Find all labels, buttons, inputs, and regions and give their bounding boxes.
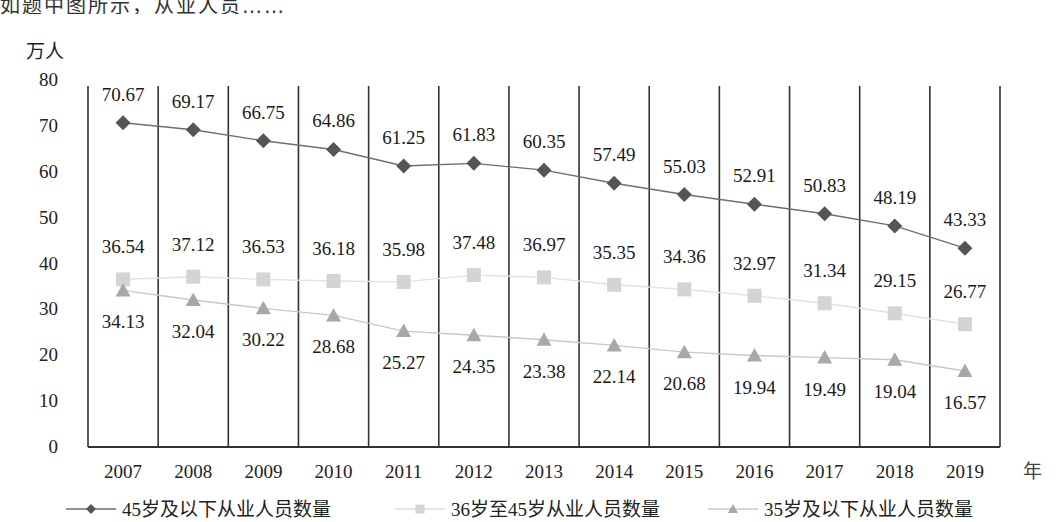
data-label: 28.68 [312,336,355,357]
data-label: 23.38 [523,361,566,382]
x-tick-label: 2013 [525,461,563,482]
data-label: 35.98 [382,239,425,260]
x-tick-label: 2015 [665,461,703,482]
diamond-marker-icon [116,115,131,130]
y-tick-label: 50 [39,207,58,228]
diamond-marker-icon [677,187,692,202]
x-tick-label: 2016 [735,461,773,482]
data-label: 70.67 [102,84,145,105]
data-label: 30.22 [242,329,285,350]
data-label: 61.25 [382,127,425,148]
y-tick-label: 10 [39,390,58,411]
x-tick-label: 2018 [876,461,914,482]
data-label: 34.36 [663,246,706,267]
data-label: 25.27 [382,352,425,373]
square-marker-icon [416,505,425,514]
legend-item: 45岁及以下从业人员数量 [66,499,331,520]
data-label: 19.94 [733,377,776,398]
data-label: 66.75 [242,102,285,123]
data-label: 57.49 [593,144,636,165]
y-tick-label: 30 [39,298,58,319]
data-label: 55.03 [663,156,706,177]
data-label: 50.83 [803,175,846,196]
square-marker-icon [747,289,761,303]
x-tick-label: 2019 [946,461,984,482]
y-tick-label: 20 [39,344,58,365]
diamond-marker-icon [817,206,832,221]
data-label: 35.35 [593,242,636,263]
square-marker-icon [256,272,270,286]
y-axis-ticks: 01020304050607080 [39,69,58,457]
x-tick-label: 2010 [315,461,353,482]
square-marker-icon [467,268,481,282]
data-label: 32.97 [733,253,776,274]
legend-label: 36岁至45岁从业人员数量 [451,499,660,520]
diamond-marker-icon [326,142,341,157]
y-tick-label: 0 [49,436,59,457]
data-label: 36.54 [102,236,145,257]
data-label: 34.13 [102,311,145,332]
x-tick-label: 2008 [174,461,212,482]
legend-label: 35岁及以下从业人员数量 [764,499,973,520]
data-label: 32.04 [172,321,215,342]
data-label: 31.34 [803,260,846,281]
x-unit-label: 年 [1023,461,1042,482]
y-unit-label: 万人 [26,41,64,62]
y-tick-label: 60 [39,161,58,182]
diamond-marker-icon [86,504,96,514]
square-marker-icon [607,278,621,292]
legend: 45岁及以下从业人员数量36岁至45岁从业人员数量35岁及以下从业人员数量 [66,499,973,520]
x-tick-label: 2014 [595,461,634,482]
data-label: 16.57 [944,392,987,413]
diamond-marker-icon [186,122,201,137]
diamond-marker-icon [256,133,271,148]
square-marker-icon [958,317,972,331]
legend-item: 36岁至45岁从业人员数量 [395,499,660,520]
x-tick-label: 2007 [104,461,142,482]
data-label: 36.18 [312,238,355,259]
x-tick-label: 2011 [385,461,422,482]
chart-canvas: 万人 01020304050607080 70.6769.1766.7564.8… [0,0,1060,522]
data-label: 19.49 [803,379,846,400]
square-marker-icon [818,296,832,310]
square-marker-icon [397,275,411,289]
data-label: 19.04 [873,381,916,402]
data-label: 36.97 [523,234,566,255]
diamond-marker-icon [887,218,902,233]
data-label: 64.86 [312,110,355,131]
y-tick-label: 40 [39,253,58,274]
data-label: 20.68 [663,373,706,394]
y-tick-label: 70 [39,115,58,136]
x-tick-label: 2009 [244,461,282,482]
data-label: 43.33 [944,209,987,230]
y-tick-label: 80 [39,69,58,90]
data-label: 26.77 [944,281,987,302]
x-tick-label: 2017 [806,461,844,482]
data-label: 22.14 [593,366,636,387]
data-label: 29.15 [873,270,916,291]
diamond-marker-icon [537,163,552,178]
data-label: 37.48 [452,232,495,253]
data-labels: 70.6769.1766.7564.8661.2561.8360.3557.49… [102,84,987,413]
square-marker-icon [888,306,902,320]
legend-item: 35岁及以下从业人员数量 [708,499,973,520]
line-chart: 万人 01020304050607080 70.6769.1766.7564.8… [0,0,1060,522]
data-label: 37.12 [172,234,215,255]
square-marker-icon [537,270,551,284]
square-marker-icon [327,274,341,288]
legend-label: 45岁及以下从业人员数量 [122,499,331,520]
data-label: 61.83 [452,124,495,145]
x-axis-ticks: 2007200820092010201120122013201420152016… [104,461,984,482]
square-marker-icon [677,282,691,296]
data-label: 69.17 [172,91,215,112]
diamond-marker-icon [396,159,411,174]
x-axis-unit-label: 年 [1023,461,1042,482]
data-label: 52.91 [733,165,776,186]
x-tick-label: 2012 [455,461,493,482]
diamond-marker-icon [466,156,481,171]
square-marker-icon [186,270,200,284]
data-label: 36.53 [242,236,285,257]
data-label: 24.35 [452,356,495,377]
diamond-marker-icon [607,176,622,191]
diamond-marker-icon [957,241,972,256]
